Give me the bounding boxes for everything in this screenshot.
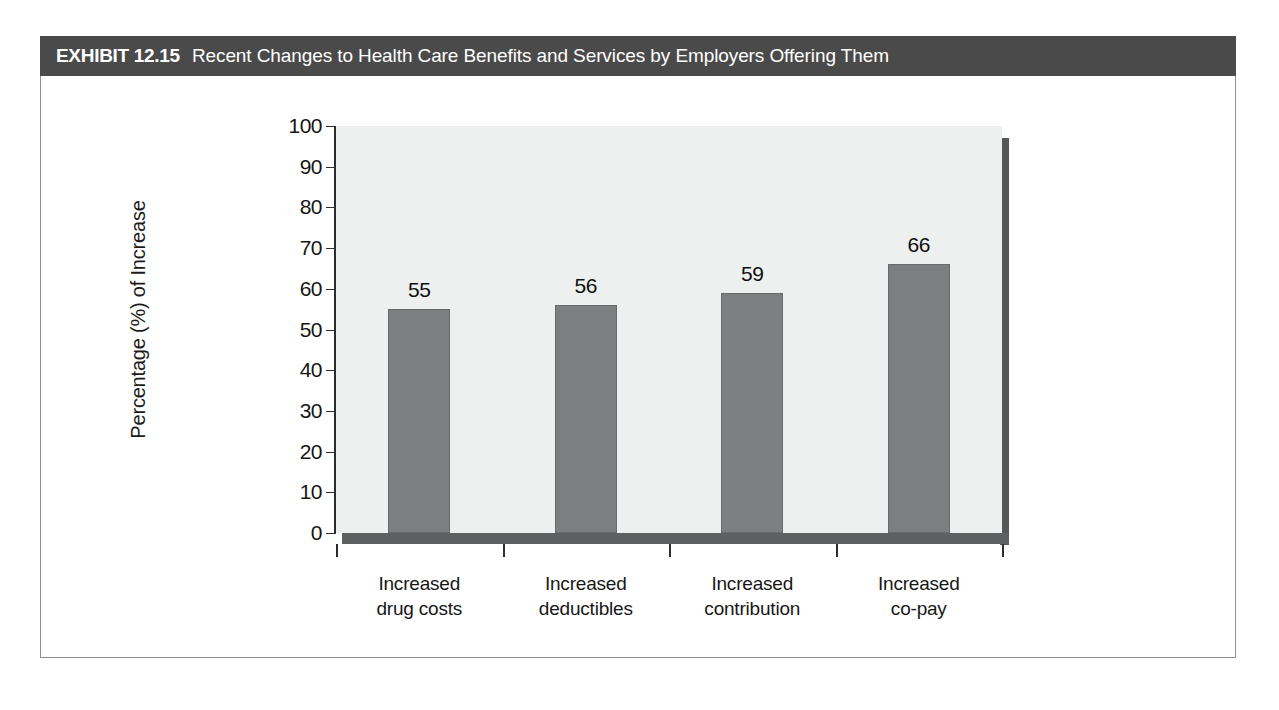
y-axis-tick bbox=[326, 452, 336, 453]
plot-shadow-bottom bbox=[342, 533, 1009, 544]
exhibit-page: EXHIBIT 12.15 Recent Changes to Health C… bbox=[0, 0, 1279, 710]
x-axis-category-line: drug costs bbox=[376, 596, 462, 621]
x-axis-category-line: Increased bbox=[878, 571, 960, 596]
y-axis-tick-label: 40 bbox=[300, 358, 322, 382]
x-axis-category-line: Increased bbox=[704, 571, 800, 596]
x-axis-tick bbox=[336, 544, 338, 557]
y-axis-tick-label: 0 bbox=[311, 521, 322, 545]
bar-value-label: 66 bbox=[908, 233, 930, 257]
x-axis-category-label: Increasedco-pay bbox=[878, 571, 960, 621]
y-axis-tick-label: 90 bbox=[300, 155, 322, 179]
bar-value-label: 59 bbox=[741, 262, 763, 286]
y-axis-tick bbox=[326, 167, 336, 168]
y-axis-tick-label: 60 bbox=[300, 277, 322, 301]
bar bbox=[555, 305, 617, 533]
bar bbox=[888, 264, 950, 533]
y-axis-tick-label: 70 bbox=[300, 236, 322, 260]
x-axis-category-line: contribution bbox=[704, 596, 800, 621]
y-axis-tick bbox=[326, 289, 336, 290]
x-axis-category-label: Increasedcontribution bbox=[704, 571, 800, 621]
y-axis-tick bbox=[326, 330, 336, 331]
y-axis-tick-label: 30 bbox=[300, 399, 322, 423]
x-axis-category-label: Increaseddeductibles bbox=[539, 571, 633, 621]
chart-area: Percentage (%) of Increase 1009080706050… bbox=[40, 76, 1236, 658]
x-axis-tick bbox=[1002, 544, 1004, 557]
y-axis-tick bbox=[326, 248, 336, 249]
y-axis-tick-label: 100 bbox=[288, 114, 322, 138]
x-axis-category-line: co-pay bbox=[878, 596, 960, 621]
y-axis-tick bbox=[326, 207, 336, 208]
exhibit-title: Recent Changes to Health Care Benefits a… bbox=[192, 45, 889, 67]
y-axis-tick-label: 20 bbox=[300, 440, 322, 464]
x-axis-tick bbox=[669, 544, 671, 557]
bar bbox=[721, 293, 783, 533]
x-axis-category-label: Increaseddrug costs bbox=[376, 571, 462, 621]
x-axis-category-line: Increased bbox=[539, 571, 633, 596]
y-axis-tick bbox=[326, 533, 336, 534]
y-axis-tick bbox=[326, 411, 336, 412]
y-axis-title: Percentage (%) of Increase bbox=[127, 160, 150, 480]
y-axis-tick-label: 50 bbox=[300, 318, 322, 342]
y-axis-tick bbox=[326, 370, 336, 371]
bar-value-label: 55 bbox=[408, 278, 430, 302]
y-axis-tick bbox=[326, 492, 336, 493]
y-axis-tick bbox=[326, 126, 336, 127]
x-axis-category-line: deductibles bbox=[539, 596, 633, 621]
exhibit-number: EXHIBIT 12.15 bbox=[56, 45, 180, 67]
bar-value-label: 56 bbox=[575, 274, 597, 298]
x-axis-tick bbox=[836, 544, 838, 557]
bar bbox=[388, 309, 450, 533]
y-axis-tick-label: 10 bbox=[300, 480, 322, 504]
x-axis-tick bbox=[503, 544, 505, 557]
x-axis-category-line: Increased bbox=[376, 571, 462, 596]
plot-area: 100908070605040302010055Increaseddrug co… bbox=[334, 126, 1002, 533]
y-axis-tick-label: 80 bbox=[300, 195, 322, 219]
exhibit-title-bar: EXHIBIT 12.15 Recent Changes to Health C… bbox=[40, 36, 1236, 76]
